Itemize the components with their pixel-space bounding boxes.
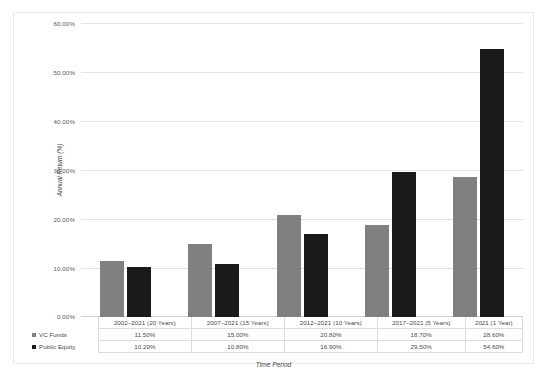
category-row-header <box>29 317 98 329</box>
bar-pe-3 <box>392 172 416 317</box>
table-row-categories: 2002–2021 (20 Years) 2007–2021 (15 Years… <box>29 317 523 329</box>
bar-group-4 <box>435 23 523 317</box>
category-cell-2: 2012–2021 (10 Years) <box>284 317 377 329</box>
bar-pe-0 <box>127 267 151 317</box>
vc-value-4: 28.60% <box>465 329 522 341</box>
vc-value-1: 15.00% <box>191 329 284 341</box>
bar-groups <box>81 23 523 317</box>
bar-vc-2 <box>277 215 301 317</box>
bar-vc-4 <box>453 177 477 317</box>
bar-group-2 <box>258 23 346 317</box>
category-cell-1: 2007–2021 (15 Years) <box>191 317 284 329</box>
ytick-label-10: 10.00% <box>53 265 75 272</box>
vc-value-3: 18.70% <box>377 329 465 341</box>
bar-group-3 <box>346 23 434 317</box>
x-axis-title: Time Period <box>14 361 533 368</box>
legend-item-public-equity: Public Equity <box>29 341 98 353</box>
table-row-public-equity: Public Equity 10.20% 10.80% 16.90% 29.50… <box>29 341 523 353</box>
bar-pe-1 <box>215 264 239 317</box>
legend-label-pe: Public Equity <box>39 343 75 350</box>
ytick-label-40: 40.00% <box>53 118 75 125</box>
pe-value-3: 29.50% <box>377 341 465 353</box>
bar-pe-2 <box>304 234 328 317</box>
legend-swatch-pe-icon <box>32 345 36 349</box>
bar-vc-3 <box>365 225 389 317</box>
bar-group-1 <box>169 23 257 317</box>
category-cell-4: 2021 (1 Year) <box>465 317 522 329</box>
pe-value-0: 10.20% <box>98 341 191 353</box>
bar-vc-0 <box>100 261 124 317</box>
pe-value-2: 16.90% <box>284 341 377 353</box>
table-row-vc-funds: VC Funds 11.50% 15.00% 20.80% 18.70% 28.… <box>29 329 523 341</box>
data-table: 2002–2021 (20 Years) 2007–2021 (15 Years… <box>29 317 523 353</box>
bar-vc-1 <box>188 244 212 318</box>
pe-value-1: 10.80% <box>191 341 284 353</box>
vc-value-0: 11.50% <box>98 329 191 341</box>
category-cell-0: 2002–2021 (20 Years) <box>98 317 191 329</box>
ytick-label-60: 60.00% <box>53 20 75 27</box>
vc-value-2: 20.80% <box>284 329 377 341</box>
legend-item-vc-funds: VC Funds <box>29 329 98 341</box>
chart-frame: 60.00% 50.00% 40.00% 30.00% 20.00% 10.00… <box>13 12 534 364</box>
legend-label-vc: VC Funds <box>39 331 67 338</box>
ytick-label-50: 50.00% <box>53 69 75 76</box>
ytick-label-20: 20.00% <box>53 216 75 223</box>
pe-value-4: 54.60% <box>465 341 522 353</box>
bar-group-0 <box>81 23 169 317</box>
bar-pe-4 <box>480 49 504 317</box>
plot-area: 60.00% 50.00% 40.00% 30.00% 20.00% 10.00… <box>81 23 523 317</box>
legend-swatch-vc-icon <box>32 333 36 337</box>
category-cell-3: 2017–2021 (5 Years) <box>377 317 465 329</box>
y-axis-title: Annual Return (%) <box>56 144 63 197</box>
